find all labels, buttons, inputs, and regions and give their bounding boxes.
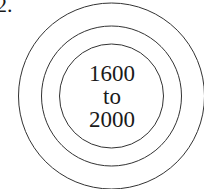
center-label: 1600 to 2000 [81,62,143,131]
center-label-line1: 1600 [81,62,143,85]
center-label-line3: 2000 [81,108,143,131]
center-label-line2: to [81,85,143,108]
